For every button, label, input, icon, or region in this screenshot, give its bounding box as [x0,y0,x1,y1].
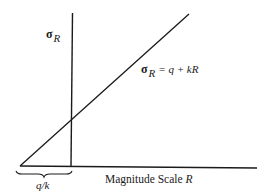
x-axis-variable: R [185,173,192,185]
equation-rhs: = q + kR [158,63,198,75]
subscript-r: R [149,67,156,79]
intercept-label: q/k [36,180,49,191]
line-equation-label: σR= q + kR [141,63,198,75]
intercept-brace [16,171,72,177]
sigma-symbol: σ [141,62,148,76]
x-axis-label-text: Magnitude Scale [105,173,183,185]
horizontal-axis [20,166,257,168]
y-axis-label: σR [46,25,60,41]
sigma-symbol: σ [46,27,53,41]
diagram-canvas [0,0,269,195]
subscript-r: R [54,32,61,44]
vertical-axis [71,13,73,166]
x-axis-label: Magnitude Scale R [105,174,193,186]
